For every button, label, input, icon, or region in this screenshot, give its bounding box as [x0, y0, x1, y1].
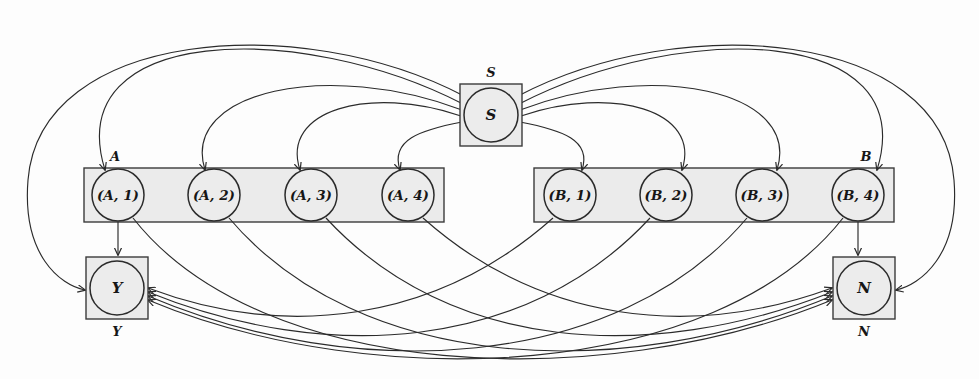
edges-s-to-b: [519, 49, 883, 170]
node-a1-label: (A, 1): [97, 187, 139, 203]
edge-b4-y: [148, 218, 843, 359]
node-y[interactable]: Y Y: [86, 257, 148, 339]
group-b-label: B: [860, 149, 872, 164]
edge-s-a2: [202, 86, 462, 170]
node-b1[interactable]: (B, 1): [544, 169, 596, 221]
edge-a2-n: [229, 218, 832, 351]
node-n-outer-label: N: [857, 324, 871, 339]
node-n[interactable]: N N: [833, 257, 895, 339]
node-a4-label: (A, 4): [387, 187, 429, 203]
edge-b1-y: [148, 218, 553, 316]
node-b4[interactable]: (B, 4): [832, 169, 884, 221]
node-b2-label: (B, 2): [645, 187, 688, 203]
node-b4-label: (B, 4): [837, 187, 880, 203]
node-b1-label: (B, 1): [549, 187, 592, 203]
edge-b2-y: [148, 218, 650, 336]
edge-s-b3: [520, 86, 780, 170]
node-a2-label: (A, 2): [193, 187, 235, 203]
edge-s-a3: [297, 103, 461, 170]
node-n-label: N: [856, 279, 872, 297]
node-b2[interactable]: (B, 2): [640, 169, 692, 221]
edge-s-a4: [398, 122, 462, 170]
edge-s-b1: [520, 122, 584, 170]
node-a1[interactable]: (A, 1): [92, 169, 144, 221]
group-a-label: A: [108, 149, 120, 164]
node-a3-label: (A, 3): [290, 187, 332, 203]
node-a3[interactable]: (A, 3): [285, 169, 337, 221]
node-s[interactable]: S S: [460, 65, 522, 147]
node-a4[interactable]: (A, 4): [382, 169, 434, 221]
diagram-canvas: S S (A, 1) (A, 2) (A, 3) (A, 4) (B, 1) (…: [0, 0, 979, 379]
node-s-outer-label: S: [486, 65, 495, 80]
node-s-label: S: [486, 106, 497, 124]
edge-s-b4: [519, 49, 883, 170]
graph-diagram: S S (A, 1) (A, 2) (A, 3) (A, 4) (B, 1) (…: [0, 0, 979, 379]
node-y-label: Y: [112, 279, 124, 297]
node-b3[interactable]: (B, 3): [736, 169, 788, 221]
edges-b-to-y: [148, 218, 843, 359]
node-y-outer-label: Y: [112, 324, 123, 339]
edges-s-to-a: [99, 49, 463, 170]
node-a2[interactable]: (A, 2): [188, 169, 240, 221]
edge-s-a1: [99, 49, 463, 170]
node-b3-label: (B, 3): [741, 187, 784, 203]
edge-s-b2: [521, 103, 685, 170]
